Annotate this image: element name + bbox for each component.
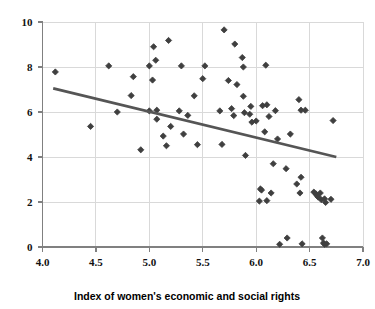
data-point-marker xyxy=(191,93,197,99)
x-tick-label: 5.5 xyxy=(196,256,210,268)
data-point-marker xyxy=(151,44,157,50)
data-point-marker xyxy=(283,166,289,172)
data-point-marker xyxy=(284,235,290,241)
data-point-marker xyxy=(176,108,182,114)
data-point-marker xyxy=(239,54,245,60)
data-point-marker xyxy=(264,198,270,204)
x-tick-label: 6.0 xyxy=(249,256,263,268)
data-point-marker xyxy=(87,123,93,129)
x-tick-label: 4.0 xyxy=(36,256,50,268)
y-tick-label: 0 xyxy=(27,241,33,253)
data-point-marker xyxy=(241,110,247,116)
data-point-marker xyxy=(165,37,171,43)
scatter-chart-figure: 4.04.55.05.56.06.57.0 0246810 Index of w… xyxy=(0,0,375,309)
data-point-marker xyxy=(225,77,231,83)
y-tick-label: 10 xyxy=(22,16,34,28)
data-point-marker xyxy=(185,112,191,118)
tick-marks xyxy=(38,22,364,252)
data-point-marker xyxy=(52,69,58,75)
data-point-marker xyxy=(178,63,184,69)
data-point-marker xyxy=(256,198,262,204)
data-point-marker xyxy=(319,235,325,241)
data-point-marker xyxy=(298,174,304,180)
data-point-marker xyxy=(149,77,155,83)
data-point-marker xyxy=(242,152,248,158)
data-point-marker xyxy=(287,131,293,137)
data-point-marker xyxy=(240,64,246,70)
chart-canvas: 4.04.55.05.56.06.57.0 0246810 Index of w… xyxy=(0,0,375,309)
y-tick-labels: 0246810 xyxy=(22,16,34,253)
data-point-marker xyxy=(160,133,166,139)
data-point-marker xyxy=(262,129,268,135)
y-tick-label: 6 xyxy=(27,106,33,118)
data-point-marker xyxy=(297,190,303,196)
data-point-marker xyxy=(146,63,152,69)
data-point-marker xyxy=(266,113,272,119)
data-point-marker xyxy=(128,92,134,98)
y-tick-label: 8 xyxy=(27,61,33,73)
data-point-marker xyxy=(168,123,174,129)
data-point-marker xyxy=(219,141,225,147)
data-point-marker xyxy=(114,109,120,115)
data-point-marker xyxy=(248,103,254,109)
data-point-marker xyxy=(234,81,240,87)
data-point-marker xyxy=(330,117,336,123)
y-tick-label: 2 xyxy=(27,196,33,208)
data-point-marker xyxy=(153,57,159,63)
data-point-marker xyxy=(200,76,206,82)
data-point-marker xyxy=(180,131,186,137)
data-point-marker xyxy=(106,63,112,69)
gridlines xyxy=(43,22,364,247)
x-tick-label: 7.0 xyxy=(356,256,370,268)
data-point-marker xyxy=(268,190,274,196)
x-tick-label: 5.0 xyxy=(142,256,156,268)
data-points xyxy=(52,27,336,248)
data-point-marker xyxy=(228,106,234,112)
data-point-marker xyxy=(232,41,238,47)
data-point-marker xyxy=(328,196,334,202)
y-tick-label: 4 xyxy=(27,151,33,163)
data-point-marker xyxy=(194,142,200,148)
data-point-marker xyxy=(138,147,144,153)
x-tick-labels: 4.04.55.05.56.06.57.0 xyxy=(36,256,371,268)
data-point-marker xyxy=(154,116,160,122)
data-point-marker xyxy=(231,113,237,119)
data-point-marker xyxy=(270,161,276,167)
x-tick-label: 6.5 xyxy=(303,256,317,268)
x-axis-title: Index of women's economic and social rig… xyxy=(74,290,300,302)
data-point-marker xyxy=(130,74,136,80)
data-point-marker xyxy=(299,241,305,247)
data-point-marker xyxy=(240,93,246,99)
data-point-marker xyxy=(221,27,227,33)
data-point-marker xyxy=(272,108,278,114)
data-point-marker xyxy=(163,143,169,149)
data-point-marker xyxy=(296,97,302,103)
data-point-marker xyxy=(294,181,300,187)
x-tick-label: 4.5 xyxy=(89,256,103,268)
data-point-marker xyxy=(217,108,223,114)
